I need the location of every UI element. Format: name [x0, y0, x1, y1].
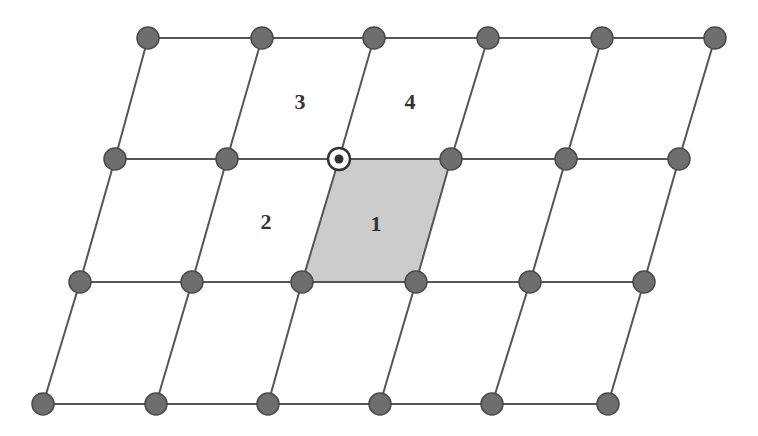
grid-edge-slanted: [679, 38, 715, 159]
special-node-dot: [335, 155, 344, 164]
grid-edge-slanted: [492, 282, 530, 404]
lattice-node: [519, 271, 541, 293]
grid-edge-slanted: [451, 38, 488, 159]
grid-edge-slanted: [115, 38, 148, 159]
cell-label-3: 3: [295, 91, 306, 113]
cell-label-1: 1: [371, 213, 382, 235]
lattice-node: [555, 148, 577, 170]
lattice-diagram: 3 4 2 1: [0, 0, 758, 436]
lattice-node: [440, 148, 462, 170]
grid-edge-slanted: [530, 159, 566, 282]
lattice-node: [257, 393, 279, 415]
lattice-node: [591, 27, 613, 49]
grid-edge-slanted: [566, 38, 602, 159]
lattice-node: [477, 27, 499, 49]
lattice-node: [32, 393, 54, 415]
lattice-node: [597, 393, 619, 415]
cell-label-4: 4: [405, 91, 416, 113]
lattice-node: [251, 27, 273, 49]
lattice-node: [405, 271, 427, 293]
lattice-node: [704, 27, 726, 49]
grid-edge-slanted: [227, 38, 262, 159]
grid-edge-slanted: [608, 282, 644, 404]
lattice-node: [145, 393, 167, 415]
lattice-node: [137, 27, 159, 49]
grid-edge-slanted: [43, 282, 80, 404]
lattice-node: [481, 393, 503, 415]
grid-edge-slanted: [380, 282, 416, 404]
grid-edge-slanted: [644, 159, 679, 282]
lattice-node: [104, 148, 126, 170]
grid-edge-slanted: [156, 282, 192, 404]
lattice-node: [668, 148, 690, 170]
grid-edge-slanted: [339, 38, 374, 159]
lattice-node: [181, 271, 203, 293]
lattice-node: [69, 271, 91, 293]
lattice-node: [216, 148, 238, 170]
lattice-node: [291, 271, 313, 293]
lattice-node: [363, 27, 385, 49]
grid-edge-slanted: [80, 159, 115, 282]
grid-edge-slanted: [192, 159, 227, 282]
lattice-node: [633, 271, 655, 293]
grid-edge-slanted: [268, 282, 302, 404]
lattice-node: [369, 393, 391, 415]
cell-label-2: 2: [261, 211, 272, 233]
